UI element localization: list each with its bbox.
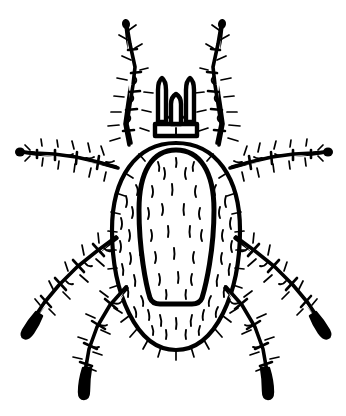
scutum (139, 150, 214, 304)
tick-illustration (0, 0, 346, 416)
tick-drawing-canvas (0, 0, 346, 416)
hypostome (171, 94, 181, 124)
right-palp (186, 78, 194, 122)
leg-4-left-tarsus (79, 368, 91, 399)
scutum-outline (139, 150, 214, 304)
leg-4-right-tarsus (261, 368, 273, 399)
leg-2-left-tip (15, 148, 25, 157)
leg-2-right-tip (323, 148, 333, 157)
left-palp (158, 78, 166, 122)
